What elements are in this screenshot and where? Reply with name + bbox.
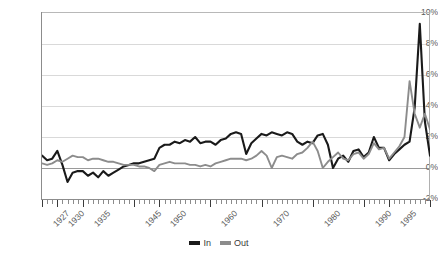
x-axis-minor-tick [165, 200, 166, 204]
x-axis-minor-tick [297, 200, 298, 204]
x-axis-minor-tick [287, 200, 288, 204]
x-axis-minor-tick [139, 200, 140, 204]
x-axis-minor-tick [328, 200, 329, 204]
x-axis-minor-tick [415, 200, 416, 204]
x-axis-major-tick [83, 200, 84, 207]
x-axis-tick-label: 1935 [92, 209, 112, 229]
x-axis-minor-tick [236, 200, 237, 204]
x-axis-major-tick [57, 200, 58, 207]
x-axis-tick-label: 1950 [169, 209, 189, 229]
x-axis-tick-label: 1960 [220, 209, 240, 229]
chart-legend: InOut [0, 236, 438, 250]
x-axis-major-tick [364, 200, 365, 207]
x-axis-minor-tick [374, 200, 375, 204]
x-axis-minor-tick [369, 200, 370, 204]
x-axis-tick-label: 1945 [143, 209, 163, 229]
x-axis-minor-tick [410, 200, 411, 204]
x-axis-minor-tick [124, 200, 125, 204]
x-axis-minor-tick [170, 200, 171, 204]
x-axis-minor-tick [62, 200, 63, 204]
x-axis-minor-tick [241, 200, 242, 204]
x-axis-minor-tick [68, 200, 69, 204]
x-axis-minor-tick [149, 200, 150, 204]
x-axis-minor-tick [272, 200, 273, 204]
legend-label: In [203, 239, 211, 248]
series-paths [42, 13, 430, 199]
x-axis-minor-tick [205, 200, 206, 204]
legend-swatch-icon [189, 241, 200, 245]
legend-swatch-icon [220, 241, 231, 245]
x-axis-minor-tick [277, 200, 278, 204]
x-axis-minor-tick [343, 200, 344, 204]
x-axis-major-tick [313, 200, 314, 207]
x-axis-minor-tick [144, 200, 145, 204]
x-axis-minor-tick [129, 200, 130, 204]
x-axis-tick-label: 1930 [67, 209, 87, 229]
x-axis-minor-tick [98, 200, 99, 204]
x-axis-major-tick [389, 200, 390, 207]
x-axis-minor-tick [323, 200, 324, 204]
x-axis-minor-tick [175, 200, 176, 204]
x-axis-minor-tick [52, 200, 53, 204]
plot-area [42, 13, 430, 199]
x-axis-tick-label: 1980 [322, 209, 342, 229]
x-axis-minor-tick [47, 200, 48, 204]
x-axis-minor-tick [338, 200, 339, 204]
legend-entry-out[interactable]: Out [220, 239, 249, 248]
x-axis-tick-label: 1995 [399, 209, 419, 229]
x-axis-minor-tick [246, 200, 247, 204]
x-axis-minor-tick [333, 200, 334, 204]
x-axis-minor-tick [404, 200, 405, 204]
x-axis-minor-tick [256, 200, 257, 204]
x-axis-minor-tick [379, 200, 380, 204]
x-axis-minor-tick [195, 200, 196, 204]
x-axis-minor-tick [251, 200, 252, 204]
x-axis-major-tick [42, 200, 43, 207]
x-axis-minor-tick [359, 200, 360, 204]
x-axis-minor-tick [231, 200, 232, 204]
x-axis-minor-tick [113, 200, 114, 204]
x-axis-minor-tick [200, 200, 201, 204]
x-axis-minor-tick [399, 200, 400, 204]
x-axis-minor-tick [185, 200, 186, 204]
x-axis-major-tick [262, 200, 263, 207]
x-axis-minor-tick [221, 200, 222, 204]
x-axis-major-tick [134, 200, 135, 207]
series-line-out [42, 81, 430, 171]
x-axis-minor-tick [282, 200, 283, 204]
x-axis-minor-tick [420, 200, 421, 204]
x-axis-minor-tick [292, 200, 293, 204]
x-axis-minor-tick [190, 200, 191, 204]
x-axis-major-tick [430, 200, 431, 207]
x-axis-minor-tick [394, 200, 395, 204]
x-axis-minor-tick [226, 200, 227, 204]
x-axis-minor-tick [353, 200, 354, 204]
x-axis-minor-tick [154, 200, 155, 204]
x-axis-major-tick [210, 200, 211, 207]
x-axis-minor-tick [180, 200, 181, 204]
x-axis-minor-tick [108, 200, 109, 204]
x-axis-minor-tick [78, 200, 79, 204]
x-axis-tick-label: 1970 [271, 209, 291, 229]
x-axis-minor-tick [384, 200, 385, 204]
x-axis-minor-tick [302, 200, 303, 204]
legend-label: Out [234, 239, 249, 248]
x-axis-minor-tick [267, 200, 268, 204]
x-axis-minor-tick [318, 200, 319, 204]
x-axis-minor-tick [307, 200, 308, 204]
x-axis-minor-tick [425, 200, 426, 204]
x-axis-minor-tick [103, 200, 104, 204]
x-axis-major-tick [159, 200, 160, 207]
x-axis-minor-tick [73, 200, 74, 204]
x-axis-minor-tick [88, 200, 89, 204]
line-chart: 10%8%6%4%2%0%-2% 19271930193519451950196… [0, 0, 438, 256]
x-axis-minor-tick [216, 200, 217, 204]
x-axis-minor-tick [119, 200, 120, 204]
x-axis-tick-label: 1990 [373, 209, 393, 229]
legend-entry-in[interactable]: In [189, 239, 211, 248]
x-axis-minor-tick [348, 200, 349, 204]
x-axis-minor-tick [93, 200, 94, 204]
